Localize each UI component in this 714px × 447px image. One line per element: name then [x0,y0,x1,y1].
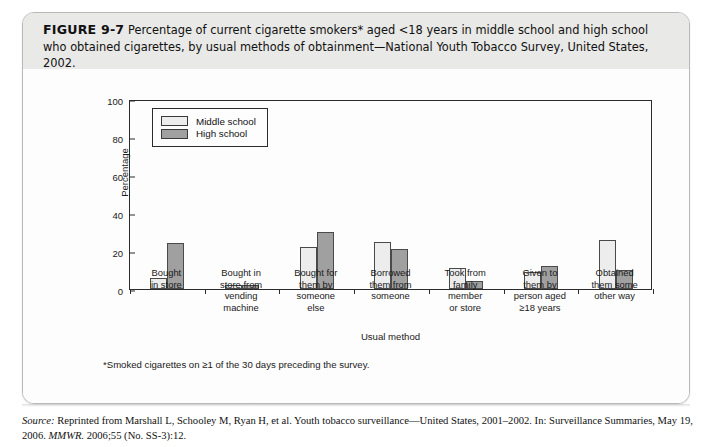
bar-group-3 [354,101,429,289]
y-tick-label-60: 60 [89,172,130,183]
y-tick-label-0: 0 [89,286,130,297]
card-shadow [22,404,690,407]
chart-plot-frame: Percentage 020406080100 Middle school Hi… [129,100,652,290]
source-label: Source: [22,415,55,426]
x-axis-label-3: Borrowedthem fromsomeone [353,267,428,302]
x-axis-label-4: Took fromfamilymemberor store [428,267,503,313]
y-tick-label-20: 20 [89,248,130,259]
x-axis-title: Usual method [129,331,652,342]
plot-area: Percentage 020406080100 Middle school Hi… [23,69,689,403]
bar-group-2 [279,101,354,289]
source-journal: MMWR. [48,430,84,441]
chart-footnote: *Smoked cigarettes on ≥1 of the 30 days … [103,359,369,370]
x-tick-mark-end [653,289,654,294]
source-citation-detail: 2006;55 (No. SS-3):12. [84,430,186,441]
source-citation: Source: Reprinted from Marshall L, Schoo… [22,414,698,443]
figure-caption-text: Percentage of current cigarette smokers*… [43,23,648,70]
x-axis-label-6: Obtainedthem someother way [577,267,652,302]
bar-group-4 [429,101,504,289]
bar-group-6 [578,101,653,289]
figure-caption-band: FIGURE 9-7 Percentage of current cigaret… [23,13,689,69]
y-tick-label-100: 100 [89,96,130,107]
bar-groups [130,101,651,289]
bar-group-1 [205,101,280,289]
figure-caption: FIGURE 9-7 Percentage of current cigaret… [43,22,669,72]
x-axis-label-2: Bought forthem bysomeoneelse [278,267,353,313]
figure-card: FIGURE 9-7 Percentage of current cigaret… [22,12,690,404]
x-axis-label-0: Boughtin store [129,267,204,290]
x-axis-label-1: Bought instore fromvendingmachine [204,267,279,313]
figure-label: FIGURE 9-7 [43,22,124,37]
x-axis-label-5: Given tothem byperson aged≥18 years [503,267,578,313]
y-tick-label-80: 80 [89,134,130,145]
y-tick-label-40: 40 [89,210,130,221]
bar-group-5 [504,101,579,289]
bar-group-0 [130,101,205,289]
